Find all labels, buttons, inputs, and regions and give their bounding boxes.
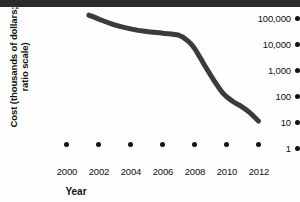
chart-screenshot: Cost (thousands of dollars; ratio scale)… — [0, 0, 300, 202]
plot-area — [0, 0, 300, 202]
data-series-line — [89, 15, 259, 121]
